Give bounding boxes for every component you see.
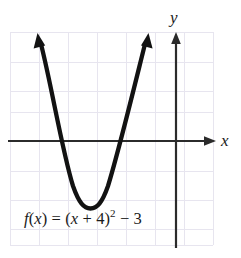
parabola-curve: [34, 33, 153, 209]
graph-figure: y x f(x) = (x + 4)2 − 3: [0, 0, 241, 258]
equation-minus-sign: −: [120, 209, 129, 228]
equation-outer-constant: 3: [134, 209, 142, 228]
equation-equals-sign: =: [52, 209, 61, 228]
equation-plus-sign: +: [83, 209, 92, 228]
equation-variable-1: x: [34, 209, 41, 228]
y-axis-label: y: [170, 9, 178, 26]
function-equation-label: f(x) = (x + 4)2 − 3: [24, 208, 142, 227]
equation-inner-constant: 4: [96, 209, 104, 228]
x-axis-label: x: [221, 132, 229, 149]
